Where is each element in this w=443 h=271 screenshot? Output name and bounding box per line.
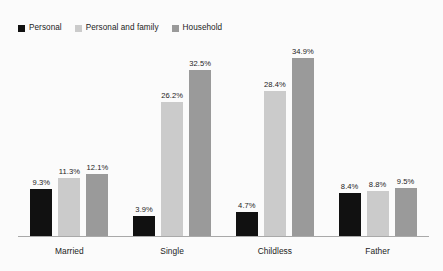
bar-value-label: 12.1%: [86, 163, 108, 172]
legend-item-personal-and-family[interactable]: Personal and family: [75, 21, 159, 35]
legend-swatch-icon: [172, 25, 179, 32]
plot-area: 9.3%11.3%12.1%3.9%26.2%32.5%4.7%28.4%34.…: [18, 42, 429, 237]
bar-group-single: 3.9%26.2%32.5%: [121, 42, 224, 236]
bar-group-married: 9.3%11.3%12.1%: [18, 42, 121, 236]
bar-father-personal-and-family[interactable]: [367, 191, 389, 236]
bar-column: 3.9%: [133, 42, 155, 236]
bar-groups: 9.3%11.3%12.1%3.9%26.2%32.5%4.7%28.4%34.…: [18, 42, 429, 236]
legend-label: Personal: [29, 23, 62, 33]
bar-column: 12.1%: [86, 42, 108, 236]
bar-column: 32.5%: [189, 42, 211, 236]
bar-value-label: 28.4%: [264, 80, 286, 89]
bar-column: 8.4%: [339, 42, 361, 236]
x-axis-label-father: Father: [326, 246, 429, 257]
bar-value-label: 34.9%: [292, 47, 314, 56]
bar-column: 28.4%: [264, 42, 286, 236]
bar-married-personal-and-family[interactable]: [58, 178, 80, 236]
bar-single-personal-and-family[interactable]: [161, 102, 183, 236]
bar-childless-personal-and-family[interactable]: [264, 91, 286, 236]
x-axis-line: [18, 236, 429, 237]
legend-item-personal[interactable]: Personal: [18, 21, 62, 35]
bar-childless-personal[interactable]: [236, 212, 258, 236]
bar-father-personal[interactable]: [339, 193, 361, 236]
x-axis-label-married: Married: [18, 246, 121, 257]
legend-label: Personal and family: [86, 23, 159, 33]
bar-value-label: 8.8%: [369, 180, 387, 189]
x-axis-label-childless: Childless: [224, 246, 327, 257]
bar-chart: Personal Personal and family Household 9…: [0, 0, 443, 271]
bar-single-personal[interactable]: [133, 216, 155, 236]
bar-single-household[interactable]: [189, 70, 211, 236]
bar-father-household[interactable]: [395, 188, 417, 237]
bar-column: 11.3%: [58, 42, 80, 236]
bar-married-personal[interactable]: [30, 189, 52, 236]
bar-column: 4.7%: [236, 42, 258, 236]
bar-value-label: 11.3%: [59, 167, 80, 176]
bar-childless-household[interactable]: [292, 58, 314, 236]
bar-value-label: 26.2%: [161, 91, 183, 100]
x-axis-label-single: Single: [121, 246, 224, 257]
chart-legend: Personal Personal and family Household: [18, 21, 222, 35]
bar-column: 9.3%: [30, 42, 52, 236]
bar-value-label: 4.7%: [238, 201, 256, 210]
bar-value-label: 8.4%: [341, 182, 359, 191]
legend-label: Household: [183, 23, 223, 33]
bar-married-household[interactable]: [86, 174, 108, 236]
x-axis-labels: MarriedSingleChildlessFather: [18, 246, 429, 257]
bar-column: 26.2%: [161, 42, 183, 236]
legend-swatch-icon: [18, 25, 25, 32]
bar-value-label: 9.3%: [33, 178, 51, 187]
bar-value-label: 9.5%: [397, 177, 415, 186]
bar-column: 8.8%: [367, 42, 389, 236]
bar-column: 9.5%: [395, 42, 417, 236]
bar-group-childless: 4.7%28.4%34.9%: [224, 42, 327, 236]
bar-column: 34.9%: [292, 42, 314, 236]
legend-swatch-icon: [75, 25, 82, 32]
bar-value-label: 3.9%: [135, 205, 153, 214]
bar-group-father: 8.4%8.8%9.5%: [326, 42, 429, 236]
bar-value-label: 32.5%: [189, 59, 211, 68]
legend-item-household[interactable]: Household: [172, 21, 223, 35]
